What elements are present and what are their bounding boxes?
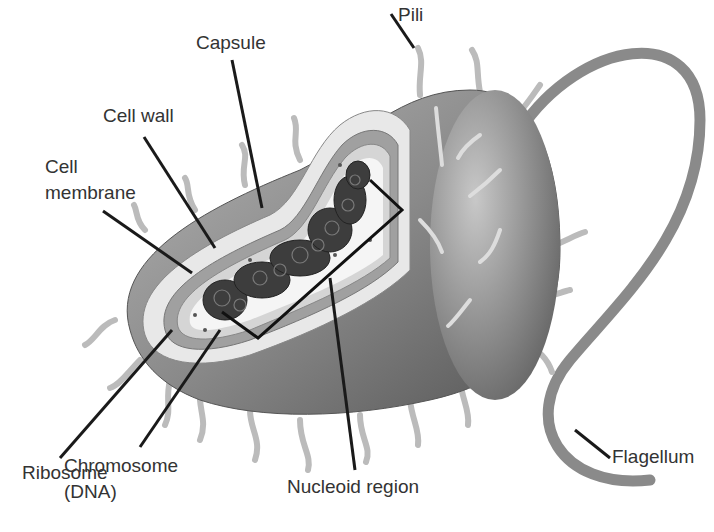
- label-cell-membrane-line2: membrane: [45, 182, 136, 204]
- label-flagellum: Flagellum: [612, 446, 694, 468]
- label-cell-wall: Cell wall: [103, 105, 174, 127]
- label-cell-membrane-line1: Cell: [45, 156, 78, 178]
- label-capsule: Capsule: [196, 32, 266, 54]
- prokaryotic-cell-diagram: Pili Capsule Cell wall Cell membrane Fla…: [0, 0, 714, 532]
- label-chromosome-line2: (DNA): [64, 481, 117, 503]
- label-pili: Pili: [398, 4, 423, 26]
- label-nucleoid-region: Nucleoid region: [287, 476, 419, 498]
- label-chromosome-line1: Chromosome: [64, 455, 178, 477]
- cell-illustration: [0, 0, 714, 532]
